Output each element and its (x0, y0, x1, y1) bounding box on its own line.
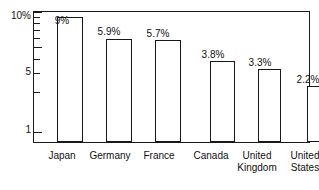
bar-value-france: 5.7% (138, 28, 178, 39)
bar-value-germany: 5.9% (89, 26, 129, 37)
y-tick-3 (34, 73, 40, 74)
bar-france (155, 40, 181, 142)
bar-value-united-states: 2.2% (288, 74, 319, 85)
y-tick-4 (34, 59, 40, 60)
y-axis-label-5: 5 (25, 67, 31, 77)
category-label-france: France (129, 150, 189, 162)
bar-value-united-kingdom: 3.3% (240, 57, 280, 68)
y-tick-1 (34, 132, 42, 133)
bar-chart: 10% 5 1 9% 5.9% 5.7% 3.8% 3.3% 2.2% Japa… (0, 0, 319, 190)
bar-japan (57, 17, 83, 142)
bar-united-kingdom (258, 69, 281, 142)
y-tick-10 (34, 12, 42, 13)
bar-germany (106, 39, 132, 142)
y-tick-2 (34, 92, 40, 93)
bar-value-japan: 9% (44, 15, 80, 26)
y-tick-9 (34, 17, 40, 18)
y-tick-7 (34, 30, 40, 31)
y-tick-8 (34, 23, 40, 24)
bar-canada (210, 61, 235, 142)
y-tick-6 (34, 38, 40, 39)
y-axis-label-10: 10% (11, 11, 31, 21)
bar-value-canada: 3.8% (193, 49, 233, 60)
y-tick-5 (34, 47, 42, 48)
y-axis-label-1: 1 (25, 125, 31, 135)
bar-united-states (307, 86, 319, 142)
category-label-united-states: United States (277, 150, 319, 173)
y-axis-labels: 10% 5 1 (0, 0, 31, 190)
